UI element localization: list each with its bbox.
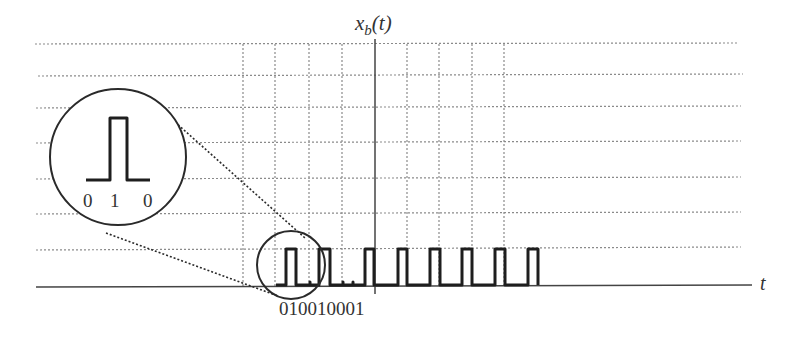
highlight-circle (257, 231, 325, 299)
grid-h-2 (38, 74, 743, 76)
grid-h-1 (35, 43, 738, 44)
magnified-bit-2: 0 (143, 190, 153, 211)
grid-h-7 (36, 247, 741, 250)
magnified-bit-1: 1 (110, 190, 120, 211)
magnified-bit-0: 0 (83, 190, 93, 211)
bit-sequence-label: 010010001 (279, 298, 365, 319)
x-axis-label: t (760, 272, 766, 294)
pulse-train-diagram: xb(t) t 0 1 0 010010001 (0, 0, 801, 340)
magnified-view: 0 1 0 (50, 89, 186, 225)
y-axis-label: xb(t) (354, 11, 392, 38)
pulse-train-signal (276, 249, 538, 285)
zoom-connector-upper (175, 122, 305, 238)
